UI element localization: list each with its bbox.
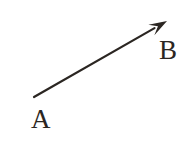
canvas-background (0, 0, 189, 146)
vector-diagram-canvas (0, 0, 189, 146)
point-label-a: A (31, 106, 51, 133)
point-label-b: B (159, 37, 177, 64)
vector-diagram-figure: A B (0, 0, 189, 146)
